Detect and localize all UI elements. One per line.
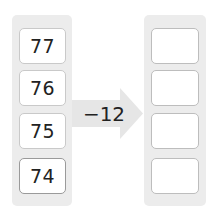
operation-label: −12 [80,100,128,127]
answer-input-box[interactable] [151,158,199,194]
input-number-box: 75 [19,113,66,149]
input-number-box: 76 [19,70,66,106]
input-column-panel: 77 76 75 74 [12,15,72,206]
answer-column-panel [144,15,206,206]
answer-input-box[interactable] [151,113,199,149]
input-number-box: 74 [19,158,66,194]
input-number-box: 77 [19,28,66,64]
answer-input-box[interactable] [151,28,199,64]
answer-input-box[interactable] [151,70,199,106]
